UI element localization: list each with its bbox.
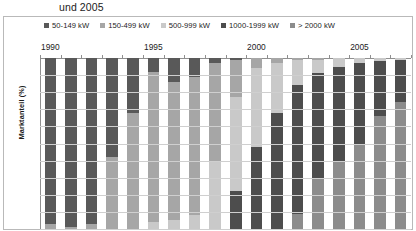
bar-segment [312,60,324,74]
legend-swatch-icon [161,23,166,28]
gridline [40,212,411,213]
x-tick [370,55,371,58]
x-tick [267,55,268,58]
legend-item-1: 50-149 kW [44,21,89,30]
bar-segment [251,58,263,68]
x-tick [226,55,227,58]
gridline [40,92,411,93]
legend-label: 500-999 kW [169,21,210,30]
x-tick [164,55,165,58]
gridline [40,161,411,162]
x-tick [40,55,41,58]
bar-segment [292,214,304,229]
x-tick [61,55,62,58]
bar-segment [292,60,304,86]
bar-segment [395,60,407,103]
legend-swatch-icon [44,23,49,28]
chart-screenshot: und 2005 50-149 kW150-499 kW500-999 kW10… [0,0,416,231]
gridline [40,178,411,179]
x-tick [246,55,247,58]
x-tick [81,55,82,58]
y-axis-title: Marktanteil (%) [17,68,26,158]
chart-title-fragment: und 2005 [59,1,104,13]
x-tick [143,55,144,58]
x-tick [205,55,206,58]
bar-segment [86,58,98,224]
bar-segment [168,58,180,82]
bar-segment [312,179,324,229]
bar-segment [374,61,386,116]
legend-swatch-icon [290,23,295,28]
x-tick [411,55,412,58]
bar-segment [168,220,180,229]
legend-label: 150-499 kW [108,21,149,30]
x-tick [349,55,350,58]
bar-segment [333,58,345,67]
bar-segment [45,58,57,224]
x-tick [329,55,330,58]
bar-segment [168,82,180,221]
legend-item-3: 500-999 kW [161,21,210,30]
gridline [40,75,411,76]
legend-swatch-icon [100,23,105,28]
x-tick [308,55,309,58]
gridline [40,144,411,145]
bar-segment [189,58,201,77]
chart-legend: 50-149 kW150-499 kW500-999 kW1000-1999 k… [44,20,374,30]
x-tick [390,55,391,58]
bar-segment [106,58,118,157]
bar-segment [251,147,263,229]
x-tick [184,55,185,58]
legend-item-4: 1000-1999 kW [221,21,279,30]
plot-area: 0102030405060708090100 1990199520002005 [40,58,411,229]
bar-segment [354,145,366,229]
bar-segment [395,102,407,229]
bar-segment [333,67,345,161]
bar-segment [106,157,118,229]
legend-item-5: > 2000 kW [290,21,335,30]
x-tick [287,55,288,58]
bar-segment [148,72,160,222]
x-year-label: 2005 [350,42,369,52]
x-year-label: 1995 [144,42,163,52]
x-tick [122,55,123,58]
bar-segment [148,58,160,72]
bar-segment [251,68,263,147]
bar-segment [271,63,283,113]
x-year-label: 1990 [41,42,60,52]
x-tick [102,55,103,58]
legend-label: 1000-1999 kW [229,21,279,30]
legend-swatch-icon [221,23,226,28]
bar-segment [127,58,139,113]
gridline [40,126,411,127]
legend-item-2: 150-499 kW [100,21,149,30]
bar-segment [189,215,201,229]
legend-label: > 2000 kW [298,21,335,30]
gridline [40,195,411,196]
x-year-label: 2000 [247,42,266,52]
bar-segment [209,63,221,162]
gridline [40,109,411,110]
legend-label: 50-149 kW [52,21,89,30]
gridline [40,229,411,230]
bar-segment [230,191,242,229]
bar-segment [148,222,160,229]
